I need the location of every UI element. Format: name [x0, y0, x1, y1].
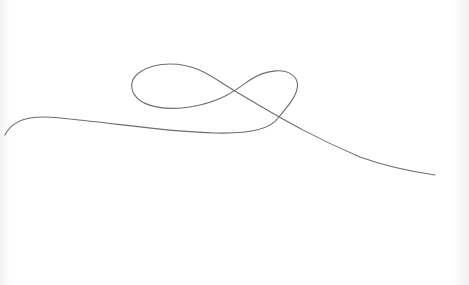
figure-eight-line-stroke — [5, 64, 435, 175]
line-drawing-canvas — [0, 0, 469, 285]
